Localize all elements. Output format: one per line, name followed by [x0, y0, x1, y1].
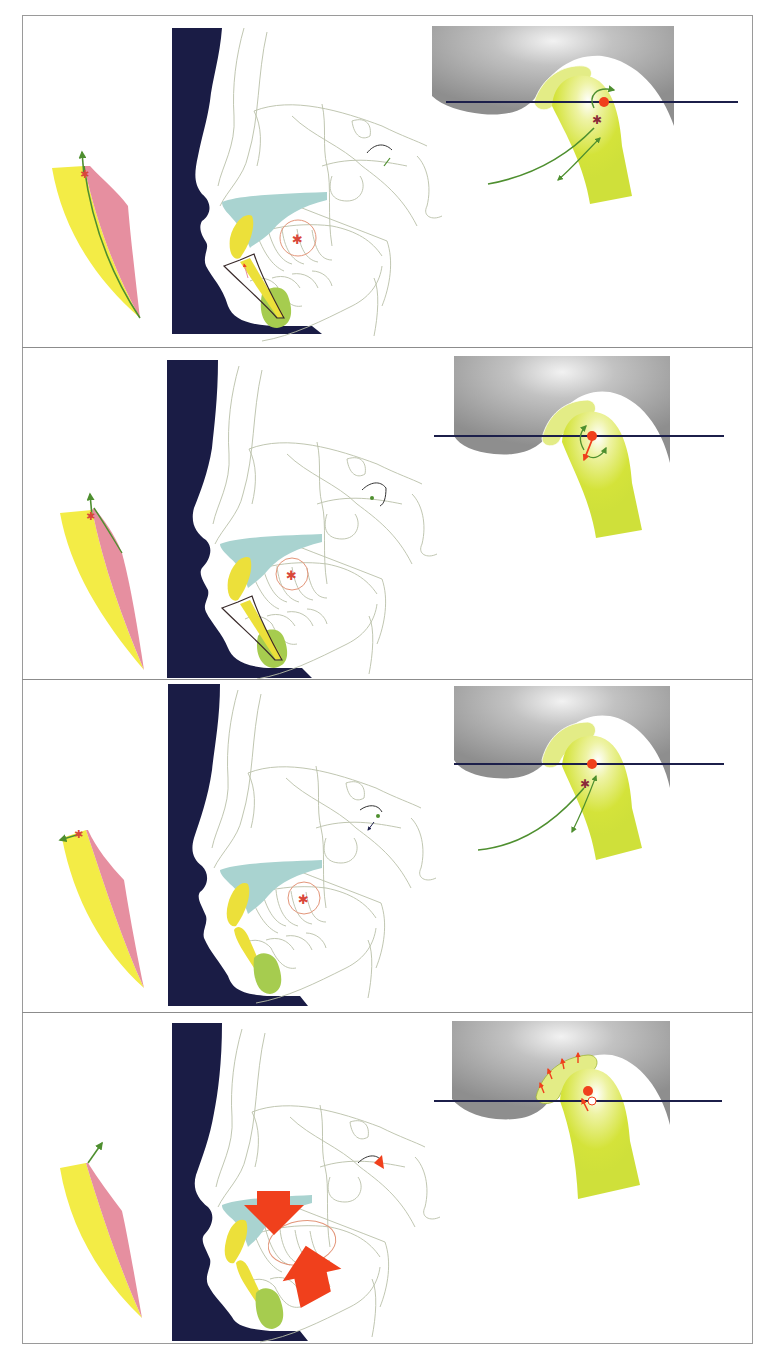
up-right-arrow-icon [88, 1143, 102, 1163]
tmj-diagram [434, 356, 724, 538]
intrusion-arrow-lower [276, 1239, 347, 1310]
panel-3: ✱ ✱ ✱ [22, 680, 753, 1011]
rotation-center-icon: ✱ [292, 232, 303, 247]
soft-tissue-profile [167, 360, 312, 678]
tooth-wedge: ✱ [60, 828, 144, 988]
upper-incisor [228, 557, 252, 601]
condyle-center-marker [599, 97, 609, 107]
svg-text:✱: ✱ [74, 828, 83, 841]
tooth-wedge: ✱ [52, 152, 140, 318]
center-marker-icon: ✱ [80, 168, 89, 181]
panel-4 [22, 1013, 753, 1343]
panel-1: ✱ ✱ ✱ [22, 16, 753, 347]
mandibular-condyle [552, 75, 632, 204]
condyle-center-marker [583, 1086, 593, 1096]
condyle-center-marker [587, 431, 597, 441]
panel-2: ✱ ✱ [22, 348, 753, 679]
upper-incisor [230, 215, 254, 259]
condyle-center-marker [587, 759, 597, 769]
eye-red-arrow-icon [374, 1155, 384, 1169]
tmj-diagram [434, 1021, 722, 1199]
mandibular-condyle [560, 1069, 640, 1199]
svg-text:✱: ✱ [86, 510, 95, 523]
svg-text:✱: ✱ [580, 777, 590, 791]
svg-text:✱: ✱ [592, 113, 602, 127]
tmj-diagram: ✱ [454, 686, 724, 860]
rotation-center-icon: ✱ [286, 568, 297, 583]
tooth-wedge [60, 1143, 142, 1318]
tooth-wedge: ✱ [60, 494, 144, 670]
soft-tissue-profile [172, 1023, 308, 1341]
upper-incisor [227, 883, 250, 926]
condyle-original-position [588, 1097, 596, 1105]
soft-tissue-profile [168, 684, 308, 1006]
rotation-center-icon: ✱ [298, 892, 309, 907]
mandibular-condyle [562, 736, 642, 860]
tmj-diagram: ✱ [432, 26, 738, 204]
mandibular-condyle [562, 412, 642, 538]
upper-incisor [225, 1220, 248, 1263]
